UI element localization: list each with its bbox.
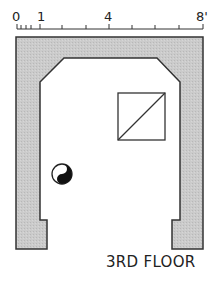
- scale-bar: [17, 24, 203, 29]
- scale-label-4: 4: [104, 9, 112, 24]
- scale-label-1: 1: [37, 9, 45, 24]
- window-square-icon: [118, 93, 165, 140]
- floor-plan-drawing: 0 1 4 8': [0, 0, 223, 281]
- wall-outline: [16, 37, 203, 249]
- scale-label-0: 0: [12, 9, 20, 24]
- fixture-circle-icon: [52, 164, 72, 184]
- scale-label-8: 8': [196, 9, 208, 24]
- floor-caption: 3RD FLOOR: [106, 253, 195, 271]
